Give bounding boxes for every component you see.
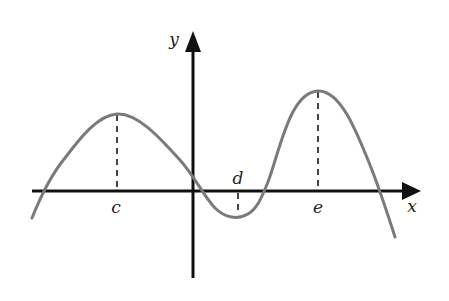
x-axis-label: x <box>407 196 417 216</box>
function-graph: y x c d e <box>0 0 449 301</box>
y-axis-label: y <box>168 29 179 49</box>
point-label-e: e <box>313 197 323 217</box>
point-label-d: d <box>233 168 244 188</box>
function-curve <box>32 91 395 237</box>
y-axis-arrow-icon <box>185 31 201 52</box>
point-label-c: c <box>111 197 121 217</box>
